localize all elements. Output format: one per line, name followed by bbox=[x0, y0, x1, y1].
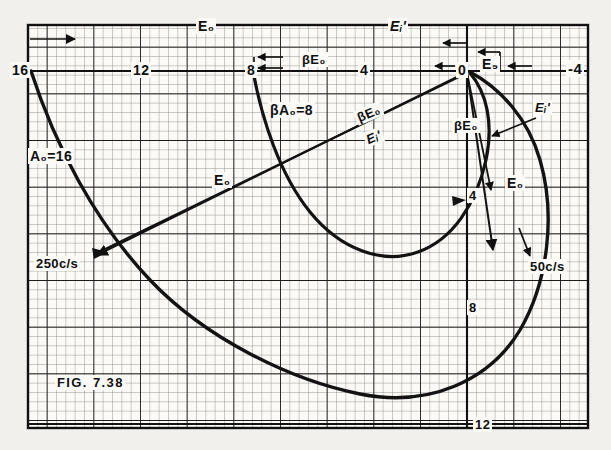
tick-right-4: 4 bbox=[467, 188, 479, 203]
label-beta-eo-right: βE₀ bbox=[452, 118, 480, 133]
label-eo-on-vector: E₀ bbox=[212, 172, 232, 188]
label-50cs: 50c/s bbox=[528, 259, 567, 274]
label-ao-equals-16: A₀=16 bbox=[28, 148, 74, 164]
label-eo-top: E₀ bbox=[196, 18, 216, 34]
label-eo-right-curve: E₀ bbox=[505, 175, 525, 191]
tick-top-12: 12 bbox=[131, 62, 151, 78]
label-250cs: 250c/s bbox=[34, 256, 80, 271]
label-eg-top: E₉ bbox=[480, 56, 500, 72]
tick-top-minus-4: -4 bbox=[566, 60, 584, 77]
label-beta-ao-equals-8: βA₀=8 bbox=[268, 102, 315, 118]
figure-caption: FIG. 7.38 bbox=[55, 375, 126, 390]
figure-7-38: 16 12 8 4 0 -4 4 8 12 E₀ Eᵢ' βE₀ E₉ A₀=1… bbox=[0, 0, 611, 450]
tick-top-0: 0 bbox=[456, 62, 468, 78]
label-ei-prime-right: Eᵢ' bbox=[533, 100, 552, 115]
label-beta-eo-top: βE₀ bbox=[300, 52, 328, 67]
graph-grid bbox=[28, 25, 588, 428]
tick-right-8: 8 bbox=[467, 300, 479, 315]
tick-bottom-12: 12 bbox=[473, 417, 492, 432]
tick-top-16: 16 bbox=[10, 62, 30, 78]
tick-top-4: 4 bbox=[358, 62, 370, 78]
label-ei-prime-top: Eᵢ' bbox=[388, 18, 408, 34]
tick-top-8: 8 bbox=[245, 62, 257, 78]
